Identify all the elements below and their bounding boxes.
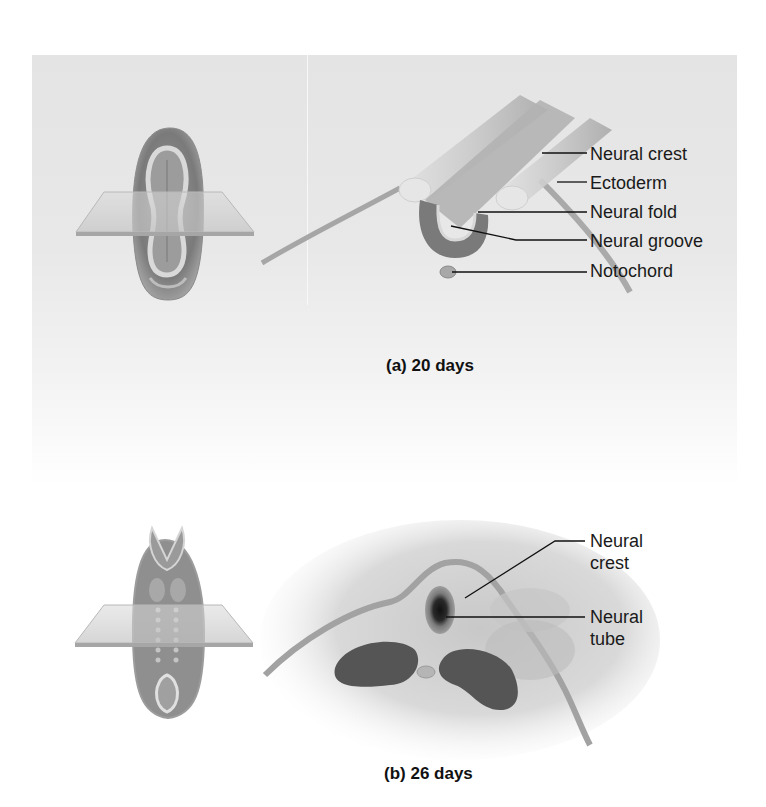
- label-neural-tube-line2: tube: [590, 629, 625, 649]
- label-neural-groove: Neural groove: [590, 231, 703, 251]
- label-notochord: Notochord: [590, 261, 673, 281]
- caption-panel-a: (a) 20 days: [386, 356, 474, 376]
- caption-panel-b: (b) 26 days: [384, 764, 473, 784]
- cross-section-20-days: [262, 95, 630, 292]
- section-plane-b: [75, 605, 253, 647]
- label-neural-crest-b-line1: Neural: [590, 531, 643, 551]
- label-neural-tube-line1: Neural: [590, 607, 643, 627]
- label-neural-crest-a: Neural crest: [590, 144, 687, 164]
- label-ectoderm: Ectoderm: [590, 173, 667, 193]
- embryo-diagram: [0, 0, 766, 807]
- label-neural-crest-b-line2: crest: [590, 553, 629, 573]
- section-plane-a: [76, 192, 254, 236]
- label-neural-fold: Neural fold: [590, 202, 677, 222]
